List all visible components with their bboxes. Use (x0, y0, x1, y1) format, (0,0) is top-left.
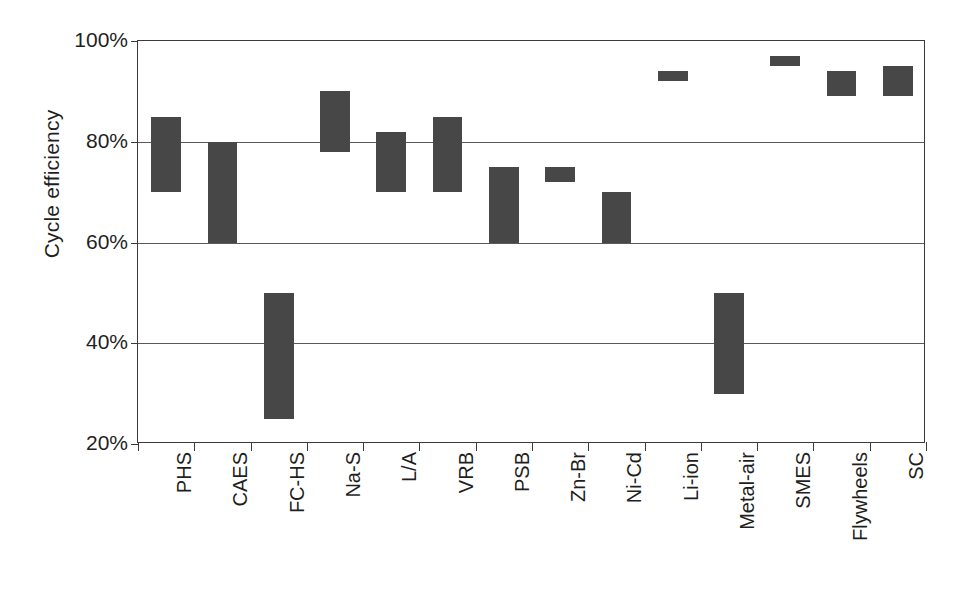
x-tick-mark (251, 442, 252, 451)
x-tick-label-flywheels: Flywheels (849, 452, 872, 541)
x-tick-mark (757, 442, 758, 451)
x-tick-mark (307, 442, 308, 451)
x-tick-label-na-s: Na-S (342, 452, 365, 498)
y-tick-mark-80 (131, 142, 138, 143)
y-tick-label-60: 60% (28, 230, 128, 254)
x-tick-mark (194, 442, 195, 451)
x-tick-label-psb: PSB (511, 452, 534, 492)
y-tick-mark-60 (131, 243, 138, 244)
x-tick-label-zn-br: Zn-Br (567, 452, 590, 502)
range-bar (883, 66, 913, 96)
range-bar (151, 117, 181, 193)
range-bar (433, 117, 463, 193)
gridline-80 (138, 142, 924, 143)
range-bar (208, 142, 238, 243)
cycle-efficiency-range-chart: Cycle efficiency 20%40%60%80%100% PHSCAE… (0, 0, 965, 605)
range-bar (489, 167, 519, 243)
x-tick-label-caes: CAES (229, 452, 252, 506)
x-tick-mark (701, 442, 702, 451)
range-bar (602, 192, 632, 242)
x-tick-label-metal-air: Metal-air (736, 452, 759, 530)
y-tick-label-80: 80% (28, 129, 128, 153)
gridline-40 (138, 343, 924, 344)
range-bar (320, 91, 350, 151)
x-tick-mark (138, 442, 139, 451)
x-tick-mark (476, 442, 477, 451)
y-tick-label-40: 40% (28, 330, 128, 354)
x-tick-label-phs: PHS (173, 452, 196, 493)
x-tick-mark (870, 442, 871, 451)
y-tick-mark-20 (131, 444, 138, 445)
range-bar (770, 56, 800, 66)
x-tick-label-vrb: VRB (455, 452, 478, 493)
y-tick-mark-40 (131, 343, 138, 344)
x-tick-label-sc: SC (905, 452, 928, 480)
x-tick-mark (645, 442, 646, 451)
gridline-60 (138, 243, 924, 244)
range-bar (545, 167, 575, 182)
range-bar (658, 71, 688, 81)
y-axis-tick-labels: 20%40%60%80%100% (0, 0, 128, 605)
x-tick-mark (532, 442, 533, 451)
x-tick-mark (588, 442, 589, 451)
x-tick-label-l-a: L/A (398, 452, 421, 482)
x-tick-label-li-ion: Li-ion (680, 452, 703, 501)
range-bar (827, 71, 857, 96)
x-tick-label-smes: SMES (792, 452, 815, 509)
y-tick-mark-100 (131, 41, 138, 42)
x-axis-tick-labels: PHSCAESFC-HSNa-SL/AVRBPSBZn-BrNi-CdLi-io… (137, 452, 925, 602)
x-tick-mark (813, 442, 814, 451)
range-bar (376, 132, 406, 192)
y-tick-label-20: 20% (28, 431, 128, 455)
x-tick-mark (363, 442, 364, 451)
range-bar (264, 293, 294, 419)
x-tick-label-ni-cd: Ni-Cd (623, 452, 646, 503)
x-tick-label-fc-hs: FC-HS (286, 452, 309, 513)
range-bar (714, 293, 744, 394)
y-tick-label-100: 100% (28, 28, 128, 52)
x-tick-mark (926, 442, 927, 451)
plot-area (137, 40, 925, 443)
x-tick-mark (419, 442, 420, 451)
